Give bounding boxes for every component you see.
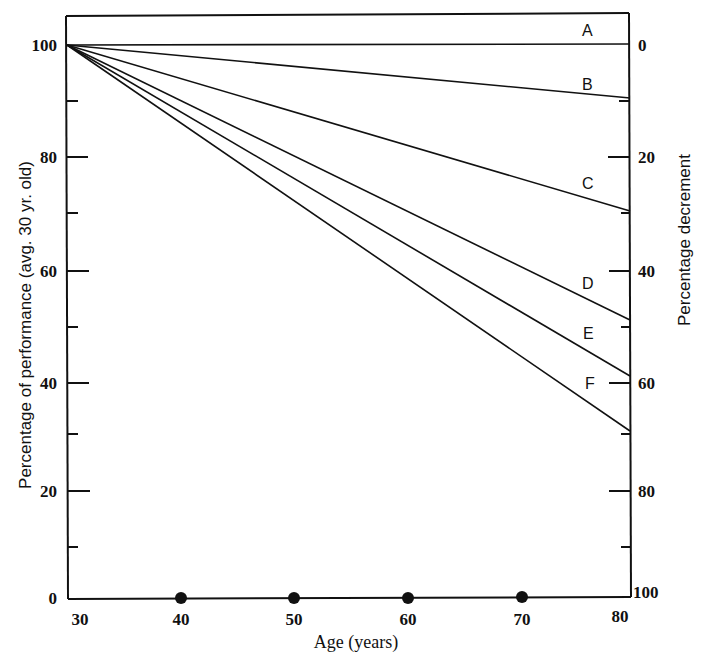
series-label-d: D <box>582 275 594 292</box>
x-tick-50: 50 <box>286 610 303 629</box>
series-label-c: C <box>582 175 594 192</box>
line-b <box>67 45 630 98</box>
y-axis-right-title: Percentage decrement <box>675 154 694 326</box>
series-label-e: E <box>583 325 594 342</box>
y-tick-20: 20 <box>40 482 57 501</box>
series-lines <box>67 44 630 431</box>
series-label-f: F <box>585 375 595 392</box>
y-axis-title: Percentage of performance (avg. 30 yr. o… <box>16 161 35 489</box>
x-tick-30: 30 <box>72 610 89 629</box>
y-tick-60: 60 <box>40 262 57 281</box>
line-e <box>67 45 630 376</box>
line-f <box>67 45 630 431</box>
left-axis <box>66 16 68 599</box>
line-c <box>67 45 630 211</box>
top-border <box>66 13 629 16</box>
x-tick-70: 70 <box>514 610 531 629</box>
line-d <box>67 45 630 320</box>
x-tick-60: 60 <box>400 610 417 629</box>
y-tick-40: 40 <box>40 374 57 393</box>
x-tick-40: 40 <box>173 610 190 629</box>
line-a <box>67 44 630 45</box>
y-right-tick-60: 60 <box>638 374 655 393</box>
y-tick-0: 0 <box>49 589 58 608</box>
series-label-b: B <box>582 76 593 93</box>
y-right-tick-20: 20 <box>638 148 655 167</box>
x-axis <box>68 597 631 599</box>
chart: A B C D E F 100 80 60 40 20 0 0 20 40 60… <box>0 0 705 670</box>
right-ticks <box>608 101 631 547</box>
y-right-tick-80: 80 <box>638 482 655 501</box>
left-ticks <box>67 101 90 547</box>
y-right-tick-40: 40 <box>638 262 655 281</box>
y-right-tick-0: 0 <box>638 36 647 55</box>
y-tick-100: 100 <box>32 36 58 55</box>
y-tick-80: 80 <box>40 148 57 167</box>
x-axis-title: Age (years) <box>314 632 398 653</box>
y-right-tick-100: 100 <box>633 583 659 602</box>
series-label-a: A <box>582 22 593 39</box>
x-tick-80: 80 <box>612 607 629 626</box>
